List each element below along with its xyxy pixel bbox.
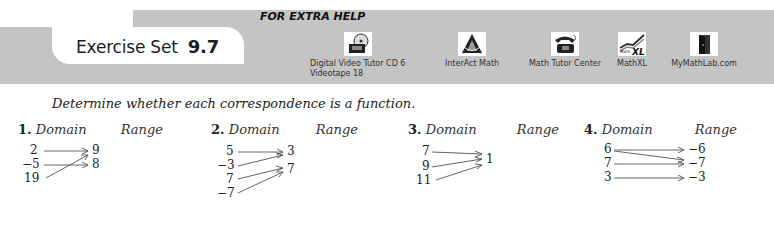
door-icon bbox=[690, 32, 718, 56]
range-value: −3 bbox=[688, 170, 706, 184]
domain-value: −3 bbox=[217, 158, 235, 172]
resource-mathxl[interactable]: XL Math MathXL bbox=[612, 32, 652, 69]
section-title: Exercise Set9.7 bbox=[76, 36, 219, 57]
domain-value: 7 bbox=[604, 156, 612, 170]
exercise-3: 3. Domain Range 7 9 11 1 bbox=[408, 122, 559, 137]
range-value: −7 bbox=[688, 156, 706, 170]
range-value: 1 bbox=[486, 152, 494, 166]
resource-label: Digital Video Tutor CD 6 bbox=[310, 59, 405, 69]
domain-value: 19 bbox=[24, 171, 39, 185]
domain-value: 11 bbox=[416, 173, 431, 187]
domain-value: 6 bbox=[604, 142, 612, 156]
exercise-1: 1. Domain Range 2 −5 19 9 8 bbox=[18, 122, 163, 137]
resource-interact-math[interactable]: InterAct Math bbox=[440, 32, 504, 69]
domain-value: 9 bbox=[422, 159, 430, 173]
mathxl-icon: XL Math bbox=[618, 32, 646, 56]
resource-mymathlab[interactable]: MyMathLab.com bbox=[665, 32, 743, 69]
range-value: 9 bbox=[92, 143, 100, 157]
range-value: 3 bbox=[287, 144, 295, 158]
resource-label: InterAct Math bbox=[440, 59, 504, 69]
resource-label: MathXL bbox=[612, 59, 652, 69]
domain-value: 7 bbox=[422, 144, 430, 158]
range-value: −6 bbox=[688, 142, 706, 156]
resource-label-line2: Videotape 18 bbox=[310, 69, 405, 79]
svg-text:XL: XL bbox=[631, 47, 645, 56]
section-number: 9.7 bbox=[188, 36, 219, 57]
domain-value: 7 bbox=[226, 172, 234, 186]
exercise-2: 2. Domain Range 5 −3 7 −7 3 7 bbox=[211, 122, 358, 137]
resource-math-tutor-center[interactable]: Math Tutor Center bbox=[525, 32, 605, 69]
interact-math-icon bbox=[458, 32, 486, 56]
extra-help-heading: FOR EXTRA HELP bbox=[260, 10, 365, 23]
exercise-4: 4. Domain Range 6 7 3 −6 −7 −3 bbox=[584, 122, 737, 137]
domain-value: 5 bbox=[226, 144, 234, 158]
resource-video-tutor[interactable]: Digital Video Tutor CD 6 Videotape 18 bbox=[310, 32, 405, 79]
resource-label: Math Tutor Center bbox=[525, 59, 605, 69]
resource-label: MyMathLab.com bbox=[665, 59, 743, 69]
svg-text:Math: Math bbox=[620, 49, 630, 54]
range-value: 7 bbox=[287, 162, 295, 176]
range-value: 8 bbox=[92, 157, 100, 171]
video-cd-icon bbox=[344, 32, 372, 56]
instructions: Determine whether each correspondence is… bbox=[52, 96, 415, 111]
domain-value: 2 bbox=[30, 143, 38, 157]
domain-value: −7 bbox=[217, 186, 235, 200]
domain-value: 3 bbox=[604, 170, 612, 184]
domain-value: −5 bbox=[22, 157, 40, 171]
section-title-text: Exercise Set bbox=[76, 37, 178, 57]
telephone-icon bbox=[551, 32, 579, 56]
